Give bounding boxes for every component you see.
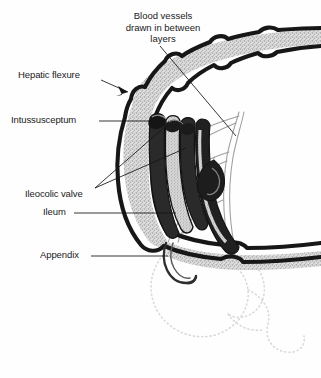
label-blood-vessels-line2: drawn in between [108,22,218,34]
label-ileum: Ileum [43,206,66,217]
label-ileocolic-valve: Ileocolic valve [25,188,83,199]
label-blood-vessels-line1: Blood vessels [108,10,218,22]
label-blood-vessels: Blood vessels drawn in between layers [108,10,218,45]
label-appendix: Appendix [40,249,79,260]
anatomical-diagram-figure: Blood vessels drawn in between layers He… [0,0,321,378]
label-intussusceptum: Intussusceptum [11,114,76,125]
label-blood-vessels-line3: layers [108,33,218,45]
label-hepatic-flexure: Hepatic flexure [18,69,80,80]
